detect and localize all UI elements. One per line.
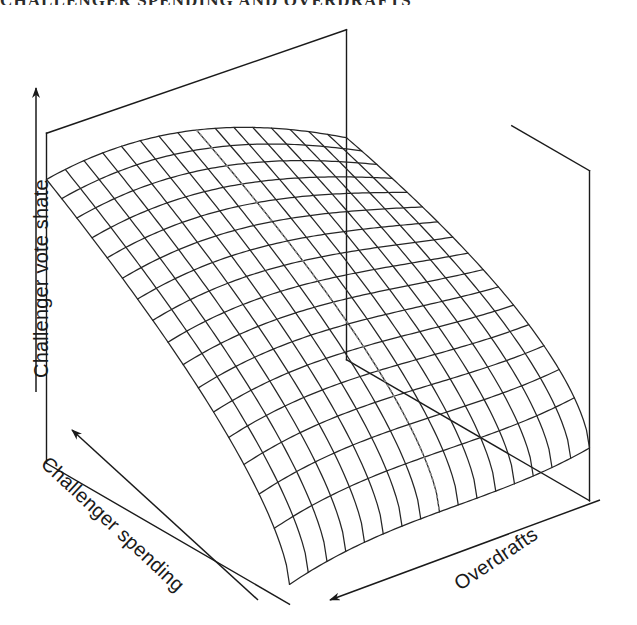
- reference-line-path: [197, 130, 440, 512]
- surface-gridline-x: [290, 448, 590, 585]
- bbox-floor-right-edge: [347, 360, 590, 501]
- surface-gridline-x: [259, 369, 559, 494]
- surface-gridline-x: [138, 222, 438, 299]
- bounding-box: [47, 30, 590, 605]
- surface-gridline-y: [84, 161, 327, 562]
- surface-gridline-x: [198, 287, 498, 388]
- surface-gridline-y: [47, 179, 290, 584]
- surface-gridline-x: [274, 398, 574, 529]
- wireframe-surface: [47, 127, 590, 584]
- dotted-reference-line: [197, 130, 440, 512]
- axis-label-challenger-vote-share: Challenger vote shate: [30, 179, 53, 378]
- surface-gridline-y: [197, 130, 440, 512]
- surface-gridline-y: [234, 127, 477, 498]
- surface-gridline-x: [214, 305, 514, 412]
- surface-plot-canvas: [0, 0, 637, 625]
- surface-gridline-x: [153, 237, 453, 320]
- bbox-inner-vertical-edge: [512, 126, 590, 171]
- surface-gridline-x: [168, 253, 468, 342]
- surface-gridline-y: [178, 133, 421, 519]
- surface-plot-figure: CHALLENGER SPENDING AND OVERDRAFTS Chall…: [0, 0, 637, 625]
- bbox-top-back-edge: [47, 30, 347, 134]
- surface-gridline-x: [229, 325, 529, 438]
- surface-gridline-x: [244, 346, 544, 465]
